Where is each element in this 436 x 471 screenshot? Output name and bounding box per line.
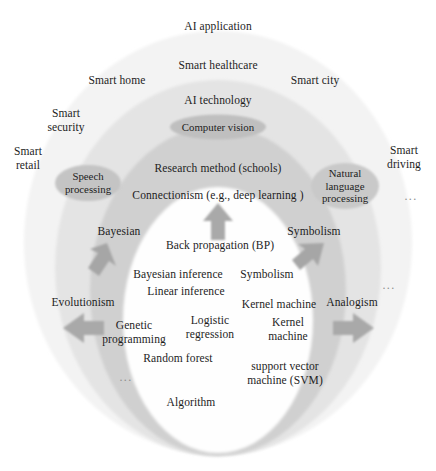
research-school-symbolism: Symbolism: [287, 225, 340, 239]
algorithm-item-symbolism: Symbolism: [240, 268, 293, 282]
algorithm-item-random-forest: Random forest: [143, 352, 212, 366]
app-item-smart-security: Smart security: [47, 107, 84, 134]
algorithm-item-kernel-machine: Kernel machine: [268, 316, 308, 343]
algorithm-item-bayesian-inference: Bayesian inference: [133, 268, 223, 282]
layer-heading-ai-application: AI application: [184, 20, 252, 34]
layer-heading-ai-technology: AI technology: [184, 94, 251, 108]
algorithm-layer-ellipsis: ...: [119, 370, 132, 385]
app-item-smart-home: Smart home: [89, 74, 146, 88]
algorithm-item-support-vector-machine: support vector machine (SVM): [247, 360, 323, 387]
algorithm-item-kernel-machine-top: Kernel machine: [242, 298, 317, 312]
app-item-smart-city: Smart city: [291, 74, 340, 88]
algorithm-item-logistic-regression: Logistic regression: [186, 314, 234, 341]
app-item-smart-driving: Smart driving: [387, 144, 421, 171]
figure-canvas: AI application Smart healthcare Smart ho…: [0, 0, 436, 471]
algorithm-item-back-propagation: Back propagation (BP): [166, 239, 274, 253]
technology-layer-ellipsis: ...: [404, 189, 417, 204]
pill-label-computer-vision[interactable]: Computer vision: [182, 121, 254, 134]
algorithm-item-genetic-programming: Genetic programming: [102, 319, 166, 346]
research-school-evolutionism: Evolutionism: [51, 296, 114, 310]
app-item-smart-retail: Smart retail: [14, 145, 42, 172]
layer-heading-research-method: Research method (schools): [154, 162, 281, 176]
research-school-bayesian: Bayesian: [98, 225, 141, 239]
app-item-smart-healthcare: Smart healthcare: [178, 59, 257, 73]
research-layer-ellipsis: ...: [382, 278, 395, 293]
layer-heading-algorithm: Algorithm: [167, 396, 216, 410]
pill-label-speech-processing[interactable]: Speech processing: [65, 170, 111, 195]
research-subheading-connectionism: Connectionism (e.g., deep learning ): [132, 189, 303, 203]
research-school-analogism: Analogism: [326, 296, 377, 310]
algorithm-item-linear-inference: Linear inference: [147, 285, 224, 299]
pill-label-natural-language-processing[interactable]: Natural language processing: [322, 167, 368, 205]
